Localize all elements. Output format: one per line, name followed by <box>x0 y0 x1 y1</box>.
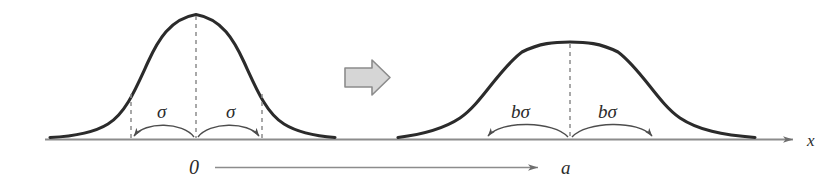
right-bsigma-arc-right <box>572 124 652 137</box>
right-bsigma-label-right: bσ <box>598 101 618 122</box>
block-arrow-icon <box>345 60 390 95</box>
left-sigma-arc-left <box>134 125 194 137</box>
left-mean-tick-label: 0 <box>189 156 199 178</box>
left-sigma-arc-right <box>198 125 259 137</box>
block-arrow-shape <box>345 60 390 95</box>
x-axis-label: x <box>806 131 815 150</box>
right-bsigma-label-left: bσ <box>511 101 531 122</box>
right-gaussian-curve <box>398 42 755 138</box>
left-gaussian-curve <box>50 15 335 138</box>
right-distribution: bσ bσ a <box>398 42 755 178</box>
left-sigma-label-right: σ <box>226 101 236 122</box>
left-sigma-label-left: σ <box>157 101 167 122</box>
right-mean-tick-label: a <box>561 157 571 178</box>
right-bsigma-arc-left <box>488 124 568 137</box>
figure-canvas: x σ σ 0 <box>0 0 840 189</box>
x-axis: x <box>45 131 815 150</box>
left-distribution: σ σ 0 <box>50 15 335 179</box>
gaussian-transform-figure: x σ σ 0 <box>0 0 840 189</box>
